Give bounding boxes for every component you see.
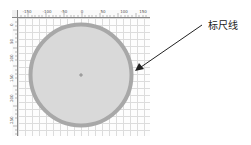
callout-label: 标尺线	[208, 17, 238, 32]
callout-arrow-icon	[135, 25, 202, 71]
